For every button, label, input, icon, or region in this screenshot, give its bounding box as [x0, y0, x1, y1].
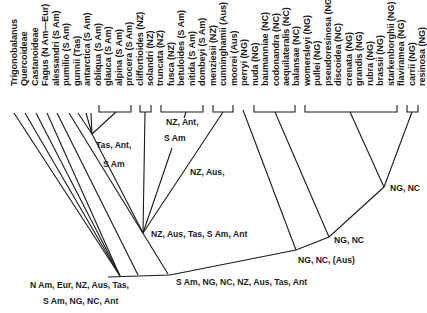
annotation-brassospora-top: NG, NC	[390, 183, 420, 194]
annotation-nothofagus-root: S Am, NG, NC, NZ, Aus, Tas, Ant	[176, 277, 307, 288]
phylogeny-diagram: TrigonobalanusQuercoideaeCastanoideaeFag…	[0, 0, 427, 313]
taxon-label: fusca (NZ)	[166, 42, 176, 86]
taxon-label: moorei (Aus)	[229, 31, 239, 86]
annotation-root: N Am, Eur, NZ, Aus, Tas,	[30, 280, 129, 291]
taxon-label: perryi (NG)	[239, 39, 249, 86]
taxon-label: pullei (NG)	[312, 41, 322, 86]
taxon-label: aequilateralis (NC)	[281, 7, 291, 86]
bracket-baumanniae-balansae	[254, 105, 295, 112]
taxon-label: alessandri (S Am)	[51, 10, 61, 86]
branch-glauca-procera	[92, 112, 116, 134]
branch-castanoideae	[36, 113, 120, 276]
taxon-label: obliqua (S Am)	[93, 23, 103, 86]
taxon-label: nitida (S Am)	[187, 31, 197, 86]
taxon-label: pumilio (S Am)	[61, 23, 71, 86]
taxon-label: gunnii (Tas)	[72, 36, 82, 86]
taxon-label: alpina (S Am)	[114, 29, 124, 86]
branch-trigonobalanus	[14, 113, 120, 276]
branch-lophozonia-b	[69, 113, 168, 274]
taxon-label: cliffortioides (NZ)	[135, 12, 145, 86]
annotation-brassospora-inner: NG, NC	[334, 235, 364, 246]
bracket-truncata-dombeyi	[161, 105, 203, 112]
taxon-label: betuloides (S Am)	[176, 10, 186, 86]
taxon-label: dombeyi (S Am)	[197, 18, 207, 86]
taxon-label: Fagus (N Am—Eur)	[40, 4, 50, 86]
taxon-label: pseudoresinosa (NG)	[323, 0, 333, 86]
taxon-label: starkenborghii (NG)	[386, 2, 396, 86]
taxon-label: brassii (NG)	[375, 35, 385, 86]
annotation-southern-clade: NZ, Aus, Tas, S Am, Ant	[151, 229, 247, 240]
branch-fuscospora	[143, 148, 172, 233]
bracket-carrii-resinosa	[407, 105, 418, 112]
taxon-label: rubra (NG)	[365, 41, 375, 86]
branch-quercoideae	[25, 113, 120, 276]
annotation-tas-ant-2: S Am	[103, 159, 125, 170]
taxon-label: Trigonobalanus	[9, 19, 19, 86]
taxon-label: menziesii (NZ)	[208, 25, 218, 86]
bracket-womersleyi-flaviramea	[305, 105, 397, 112]
taxon-label: balansae (NC)	[291, 26, 301, 86]
branch-cliffortioides	[143, 112, 145, 233]
annotation-tas-ant: Tas, Ant,	[96, 140, 131, 151]
taxon-label: discoidea (NC)	[333, 23, 343, 86]
branch-womersleyi	[350, 112, 384, 187]
taxon-label: baumanniae (NC)	[260, 12, 270, 86]
annotation-brassospora-root: NG, NC, (Aus)	[298, 255, 355, 266]
taxon-label: resinosa (NG)	[417, 27, 427, 86]
taxon-label: cunninghamii (Aus)	[218, 2, 228, 86]
branch-lophozonia-a	[57, 113, 138, 275]
annotation-nz-aus: NZ, Aus,	[190, 167, 225, 178]
taxon-label: nuda (NG)	[250, 43, 260, 87]
taxon-label: carrii (NG)	[407, 42, 417, 86]
taxon-label: Castanoideae	[30, 27, 40, 86]
taxon-label: flaviramea (NG)	[396, 20, 406, 86]
taxon-label: procera (S Am)	[124, 22, 134, 86]
annotation-nz-ant: NZ, Ant,	[166, 117, 199, 128]
root-baseline	[108, 275, 170, 277]
taxon-label: glauca (S Am)	[103, 26, 113, 86]
bracket-menziesii-moorei	[213, 105, 233, 112]
bracket-glauca-procera	[99, 105, 131, 112]
taxon-label: Quercoideae	[19, 31, 29, 86]
taxon-label: crenata (NG)	[344, 32, 354, 86]
taxon-label: antarctica (S Am)	[82, 12, 92, 86]
taxon-label: solandri (NZ)	[145, 31, 155, 86]
taxon-label: truncata (NZ)	[155, 30, 165, 86]
bracket-cliffortioides-solandri	[140, 105, 151, 112]
taxon-label: womersleyi (NG)	[302, 15, 312, 86]
branch-baumanniae	[275, 112, 329, 237]
branch-perryi	[243, 110, 296, 250]
taxon-label: grandis (NG)	[354, 32, 364, 86]
annotation-root-2: S Am, NG, NC, Ant	[43, 296, 118, 307]
taxon-label: codonandra (NC)	[271, 13, 281, 86]
branch-carrii	[384, 112, 412, 187]
annotation-nz-ant-2: S Am	[164, 133, 186, 144]
